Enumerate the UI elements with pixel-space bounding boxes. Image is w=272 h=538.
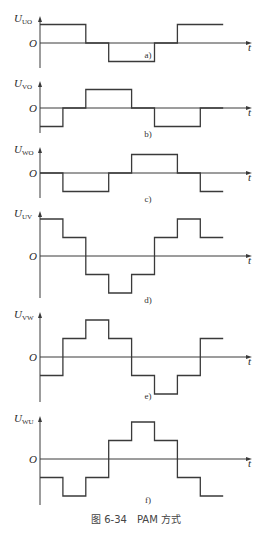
y-axis-label: UWU xyxy=(14,412,34,426)
figure-caption: 图 6-34 PAM 方式 xyxy=(0,511,272,526)
waveform-panel-a: UUOOta) xyxy=(14,12,252,68)
origin-label: O xyxy=(29,250,37,262)
y-axis-label: UVW xyxy=(14,308,34,322)
waveform-panel-b: UVOOtb) xyxy=(14,77,252,139)
y-axis-arrow-icon xyxy=(38,81,42,87)
origin-label: O xyxy=(29,167,37,179)
y-axis-label: UUV xyxy=(14,207,32,221)
pam-waveform-figure: UUOOta)UVOOtb)UWOOtc)UUVOtd)UVWOte)UWUOt… xyxy=(0,0,272,538)
origin-label: O xyxy=(29,453,37,465)
y-axis-arrow-icon xyxy=(38,147,42,153)
panel-sublabel: c) xyxy=(145,194,152,204)
origin-label: O xyxy=(29,351,37,363)
waveform-panel-e: UVWOte) xyxy=(14,308,252,402)
y-axis-label: UVO xyxy=(14,77,32,91)
waveform-panel-c: UWOOtc) xyxy=(14,143,252,204)
y-axis-label: UWO xyxy=(14,143,34,157)
t-label: t xyxy=(248,355,252,367)
panel-sublabel: a) xyxy=(145,50,152,60)
origin-label: O xyxy=(29,37,37,49)
panel-sublabel: b) xyxy=(144,129,152,139)
y-axis-arrow-icon xyxy=(38,211,42,217)
waveform-panel-d: UUVOtd) xyxy=(14,207,252,305)
panel-sublabel: f) xyxy=(145,495,151,505)
panel-sublabel: e) xyxy=(145,391,152,401)
waveform-panel-f: UWUOtf) xyxy=(14,412,252,505)
t-label: t xyxy=(248,457,252,469)
y-axis-label: UUO xyxy=(14,12,32,26)
panel-sublabel: d) xyxy=(144,295,152,305)
origin-label: O xyxy=(29,102,37,114)
y-axis-arrow-icon xyxy=(38,312,42,318)
y-axis-arrow-icon xyxy=(38,416,42,422)
y-axis-arrow-icon xyxy=(38,16,42,22)
